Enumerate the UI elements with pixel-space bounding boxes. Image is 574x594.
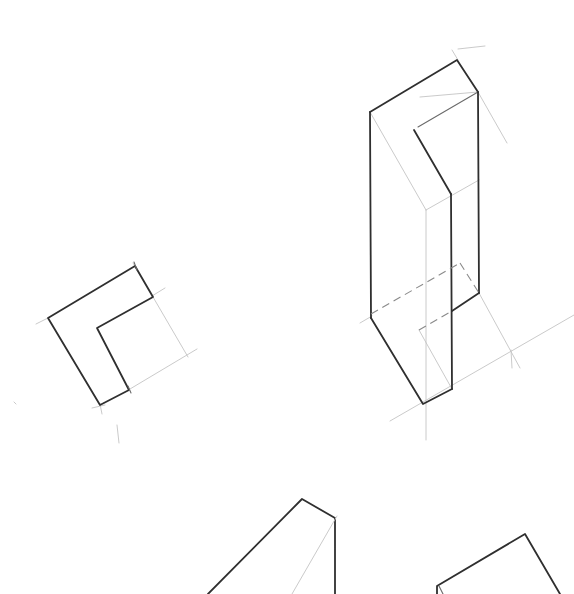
l-shape-profile <box>14 262 197 443</box>
partial-shape-bottom-right <box>437 534 560 594</box>
l-prism-extruded <box>360 46 574 440</box>
partial-shape-bottom-left <box>208 499 337 594</box>
sketch-canvas <box>0 0 574 594</box>
